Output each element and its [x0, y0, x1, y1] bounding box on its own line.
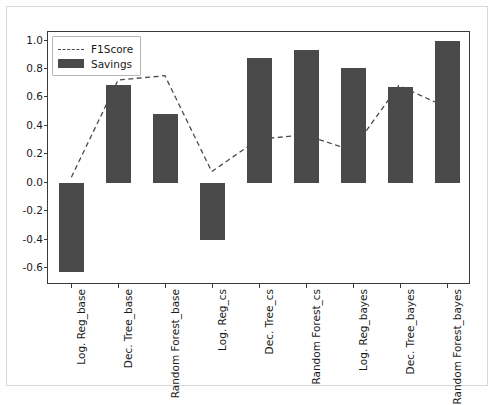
dashed-line-swatch-icon [58, 43, 84, 55]
x-axis-tick-mark [212, 284, 213, 288]
x-axis-tick-label: Random Forest_cs [310, 289, 322, 385]
x-axis-tick-mark [353, 284, 354, 288]
legend-item-savings: Savings [58, 56, 133, 71]
x-axis-tick-label: Random Forest_base [169, 289, 181, 398]
x-axis-tick-label: Log. Reg_base [75, 289, 87, 365]
y-axis-tick-label: 0.2 [26, 147, 43, 159]
legend-label-savings: Savings [91, 58, 132, 70]
chart-legend: F1Score Savings [52, 36, 141, 76]
y-axis-tick-label: -0.4 [23, 233, 44, 245]
x-axis-tick-label: Log. Reg_cs [216, 289, 228, 351]
y-axis-tick-label: -0.6 [23, 261, 44, 273]
x-axis-tick-label: Dec. Tree_cs [263, 289, 275, 354]
x-axis-tick-label: Log. Reg_bayes [357, 289, 369, 371]
x-axis-tick-mark [71, 284, 72, 288]
legend-item-f1score: F1Score [58, 41, 133, 56]
x-axis-tick-mark [165, 284, 166, 288]
x-axis-tick-mark [118, 284, 119, 288]
y-axis-tick-label: 1.0 [26, 34, 43, 46]
f1score-polyline [71, 76, 445, 178]
x-axis-tick-label: Dec. Tree_base [122, 289, 134, 368]
x-axis-tick-labels: Log. Reg_baseDec. Tree_baseRandom Forest… [47, 289, 470, 389]
filled-patch-swatch-icon [58, 59, 84, 68]
y-axis-tick-label: 0.4 [26, 119, 43, 131]
legend-label-f1score: F1Score [91, 43, 133, 55]
y-axis-tick-label: 0.0 [26, 176, 43, 188]
x-axis-tick-mark [400, 284, 401, 288]
x-axis-tick-mark [259, 284, 260, 288]
x-axis-tick-marks [47, 284, 470, 288]
y-axis-tick-label: 0.6 [26, 90, 43, 102]
y-axis-tick-labels: 1.00.80.60.40.20.0-0.2-0.4-0.6 [0, 31, 43, 284]
x-axis-tick-mark [447, 284, 448, 288]
y-axis-tick-label: 0.8 [26, 62, 43, 74]
y-axis-tick-label: -0.2 [23, 204, 44, 216]
x-axis-tick-label: Random Forest_bayes [451, 289, 463, 405]
x-axis-tick-label: Dec. Tree_bayes [404, 289, 416, 374]
x-axis-tick-mark [306, 284, 307, 288]
